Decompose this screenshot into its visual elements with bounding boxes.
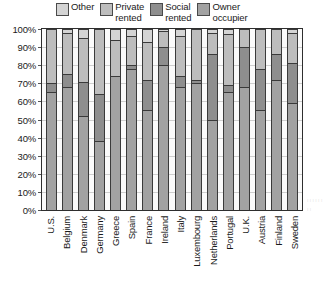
bar-group: [42, 29, 302, 210]
legend-label: Private rented: [115, 2, 144, 23]
bar-segment: [256, 69, 265, 111]
bar-segment: [176, 29, 185, 36]
bar-segment: [143, 80, 152, 111]
bar-segment: [127, 36, 136, 65]
bar-italy[interactable]: [175, 29, 186, 210]
x-axis-tick-label: Luxembourg: [191, 216, 202, 267]
x-axis-tick: Germany: [93, 213, 104, 294]
legend-swatch-private-rented: [100, 3, 113, 16]
bar-segment: [224, 85, 233, 92]
x-axis-tick: Italy: [175, 213, 186, 294]
x-axis-tick: Ireland: [158, 213, 169, 294]
bar-segment: [111, 76, 120, 210]
x-axis-tick-label: Portugal: [223, 216, 234, 250]
y-axis-tick-label: 80%: [0, 61, 36, 71]
legend-entry[interactable]: Other: [56, 2, 94, 16]
bar-sweden[interactable]: [287, 29, 298, 210]
x-axis-tick-label: Belgium: [61, 216, 72, 249]
x-axis-tick: Netherlands: [207, 213, 218, 294]
legend-entry[interactable]: Owner occupier: [197, 2, 247, 23]
bar-segment: [127, 29, 136, 36]
bar-segment: [176, 76, 185, 87]
bar-luxembourg[interactable]: [191, 29, 202, 210]
x-axis-tick: Sweden: [288, 213, 299, 294]
bar-segment: [256, 29, 265, 69]
bar-segment: [208, 33, 217, 55]
x-axis-tick-label: Italy: [175, 216, 186, 232]
bar-segment: [159, 47, 168, 65]
plot-area: [41, 28, 303, 211]
bar-segment: [288, 103, 297, 210]
bar-segment: [95, 29, 104, 94]
bar-france[interactable]: [142, 29, 153, 210]
x-axis-tick-label: U.K.: [240, 216, 251, 234]
bar-segment: [47, 92, 56, 210]
bar-spain[interactable]: [126, 29, 137, 210]
bar-germany[interactable]: [94, 29, 105, 210]
bar-u-s[interactable]: [46, 29, 57, 210]
x-axis-tick: Finland: [272, 213, 283, 294]
bar-segment: [63, 74, 72, 87]
y-axis-tick-label: 60%: [0, 97, 36, 107]
y-axis-tick-label: 50%: [0, 115, 36, 125]
legend-swatch-social-rented: [150, 3, 163, 16]
bar-segment: [288, 33, 297, 64]
bar-denmark[interactable]: [78, 29, 89, 210]
x-axis: U.S.BelgiumDenmarkGermanyGreeceSpainFran…: [41, 213, 303, 294]
bar-segment: [47, 83, 56, 92]
bar-segment: [111, 40, 120, 76]
legend-label: Other: [71, 2, 94, 13]
bar-segment: [176, 87, 185, 210]
bar-segment: [79, 116, 88, 210]
x-axis-tick: U.S.: [45, 213, 56, 294]
bar-netherlands[interactable]: [207, 29, 218, 210]
x-axis-tick-label: Netherlands: [207, 216, 218, 265]
bar-segment: [63, 33, 72, 75]
x-axis-tick: Luxembourg: [191, 213, 202, 294]
bar-segment: [143, 29, 152, 42]
bar-finland[interactable]: [271, 29, 282, 210]
bar-segment: [176, 36, 185, 76]
y-axis-tick-label: 20%: [0, 169, 36, 179]
bar-segment: [240, 87, 249, 210]
bar-segment: [272, 54, 281, 79]
bar-segment: [111, 29, 120, 40]
stacked-bar-chart-figure: OtherPrivate rentedSocial rentedOwner oc…: [0, 0, 326, 294]
bar-segment: [224, 34, 233, 85]
bar-segment: [192, 83, 201, 210]
x-axis-tick-label: Denmark: [77, 216, 88, 253]
y-axis-tick-label: 30%: [0, 151, 36, 161]
bar-austria[interactable]: [255, 29, 266, 210]
y-axis-tick-label: 0%: [0, 206, 36, 216]
bar-ireland[interactable]: [158, 29, 169, 210]
bar-segment: [95, 141, 104, 210]
y-axis-tick-label: 70%: [0, 79, 36, 89]
bar-segment: [240, 29, 249, 47]
x-axis-tick: Greece: [110, 213, 121, 294]
scan-artifact: ı ı ı ı ı ı ı ı: [307, 196, 325, 288]
x-axis-tick-label: France: [142, 216, 153, 244]
x-axis-tick: Belgium: [61, 213, 72, 294]
bar-segment: [272, 80, 281, 210]
bar-segment: [143, 42, 152, 80]
bar-segment: [288, 63, 297, 103]
x-axis-tick: Denmark: [77, 213, 88, 294]
bar-segment: [127, 69, 136, 210]
x-axis-tick-label: Germany: [93, 216, 104, 254]
x-axis-tick-label: Finland: [272, 216, 283, 246]
bar-u-k[interactable]: [239, 29, 250, 210]
bar-segment: [192, 29, 201, 80]
legend-entry[interactable]: Social rented: [150, 2, 191, 23]
x-axis-tick: Spain: [126, 213, 137, 294]
legend-label: Owner occupier: [212, 2, 247, 23]
y-axis-tick-label: 10%: [0, 187, 36, 197]
bar-greece[interactable]: [110, 29, 121, 210]
legend-entry[interactable]: Private rented: [100, 2, 144, 23]
chart-legend: OtherPrivate rentedSocial rentedOwner oc…: [56, 2, 322, 28]
bar-portugal[interactable]: [223, 29, 234, 210]
bar-segment: [256, 110, 265, 210]
legend-swatch-owner-occupier: [197, 3, 210, 16]
bar-segment: [79, 82, 88, 116]
legend-label: Social rented: [165, 2, 191, 23]
bar-belgium[interactable]: [62, 29, 73, 210]
